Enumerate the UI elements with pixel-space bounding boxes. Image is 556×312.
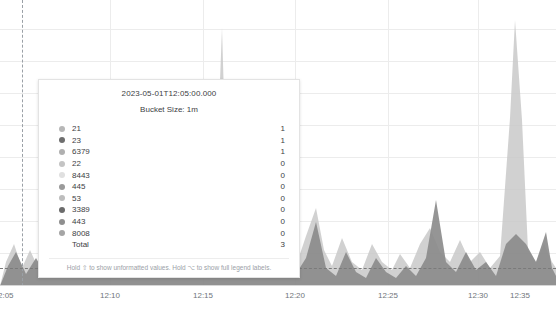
legend-series-label: 22 bbox=[72, 159, 281, 168]
tooltip-footer-hint: Hold ⇧ to show unformatted values. Hold … bbox=[49, 258, 289, 272]
legend-color-dot-icon bbox=[59, 219, 65, 225]
legend-color-dot-icon bbox=[59, 161, 65, 167]
hover-tooltip[interactable]: 2023-05-01T12:05:00.000 Bucket Size: 1m … bbox=[38, 79, 300, 278]
total-value: 3 bbox=[281, 240, 285, 249]
legend-series-label: 53 bbox=[72, 194, 281, 203]
total-spacer bbox=[59, 242, 65, 248]
tooltip-legend-row: 231 bbox=[59, 135, 285, 147]
legend-series-value: 0 bbox=[281, 171, 285, 180]
legend-series-value: 0 bbox=[281, 217, 285, 226]
tooltip-total-row: Total3 bbox=[59, 239, 285, 251]
tooltip-timestamp: 2023-05-01T12:05:00.000 bbox=[49, 89, 289, 98]
tooltip-legend-row: 4430 bbox=[59, 216, 285, 228]
x-axis-tick-label: 12:15 bbox=[193, 291, 213, 300]
tooltip-legend-row: 80080 bbox=[59, 227, 285, 239]
tooltip-legend-row: 530 bbox=[59, 193, 285, 205]
legend-color-dot-icon bbox=[59, 184, 65, 190]
tooltip-legend-row: 33890 bbox=[59, 204, 285, 216]
tooltip-legend-list: 2112316379122084430445053033890443080080… bbox=[49, 123, 289, 251]
legend-series-label: 8008 bbox=[72, 229, 281, 238]
legend-series-value: 1 bbox=[281, 124, 285, 133]
x-axis: 2:0512:1012:1512:2012:2512:3012:35 bbox=[0, 286, 556, 312]
legend-series-label: 23 bbox=[72, 136, 281, 145]
legend-color-dot-icon bbox=[59, 126, 65, 132]
legend-series-label: 443 bbox=[72, 217, 281, 226]
legend-series-value: 0 bbox=[281, 194, 285, 203]
legend-color-dot-icon bbox=[59, 149, 65, 155]
tooltip-bucket-size: Bucket Size: 1m bbox=[49, 105, 289, 114]
legend-series-label: 6379 bbox=[72, 147, 281, 156]
legend-series-value: 0 bbox=[281, 159, 285, 168]
tooltip-legend-row: 4450 bbox=[59, 181, 285, 193]
legend-color-dot-icon bbox=[59, 230, 65, 236]
x-axis-tick-label: 12:30 bbox=[468, 291, 488, 300]
legend-series-value: 1 bbox=[281, 147, 285, 156]
legend-color-dot-icon bbox=[59, 172, 65, 178]
legend-series-label: 8443 bbox=[72, 171, 281, 180]
legend-series-label: 21 bbox=[72, 124, 281, 133]
time-series-area-chart[interactable]: 2:0512:1012:1512:2012:2512:3012:35 2023-… bbox=[0, 0, 556, 312]
hover-cursor-line bbox=[22, 0, 23, 286]
x-axis-tick-label: 12:10 bbox=[100, 291, 120, 300]
legend-series-value: 0 bbox=[281, 229, 285, 238]
tooltip-legend-row: 211 bbox=[59, 123, 285, 135]
legend-color-dot-icon bbox=[59, 137, 65, 143]
x-axis-tick-label: 12:35 bbox=[510, 291, 530, 300]
legend-series-value: 1 bbox=[281, 136, 285, 145]
x-axis-tick-label: 2:05 bbox=[0, 291, 14, 300]
legend-series-label: 445 bbox=[72, 182, 281, 191]
legend-series-value: 0 bbox=[281, 182, 285, 191]
total-label: Total bbox=[72, 240, 281, 249]
tooltip-legend-row: 63791 bbox=[59, 146, 285, 158]
x-axis-tick-label: 12:25 bbox=[378, 291, 398, 300]
legend-series-value: 0 bbox=[281, 205, 285, 214]
legend-color-dot-icon bbox=[59, 195, 65, 201]
legend-series-label: 3389 bbox=[72, 205, 281, 214]
x-axis-tick-label: 12:20 bbox=[285, 291, 305, 300]
tooltip-legend-row: 84430 bbox=[59, 169, 285, 181]
tooltip-legend-row: 220 bbox=[59, 158, 285, 170]
legend-color-dot-icon bbox=[59, 207, 65, 213]
